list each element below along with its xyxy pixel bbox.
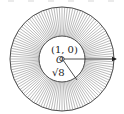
inner-radius-label: √8	[52, 67, 65, 78]
center-coordinate-label: (1, 0)	[51, 44, 78, 55]
annulus-diagram: (1, 0) O √8	[0, 0, 124, 114]
origin-label: O	[56, 55, 64, 65]
